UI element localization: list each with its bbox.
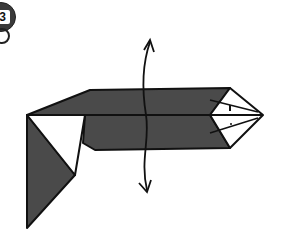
origami-diagram [0, 0, 283, 244]
top-band [27, 88, 230, 115]
tip-dot [230, 123, 232, 125]
bottom-band [83, 115, 230, 150]
